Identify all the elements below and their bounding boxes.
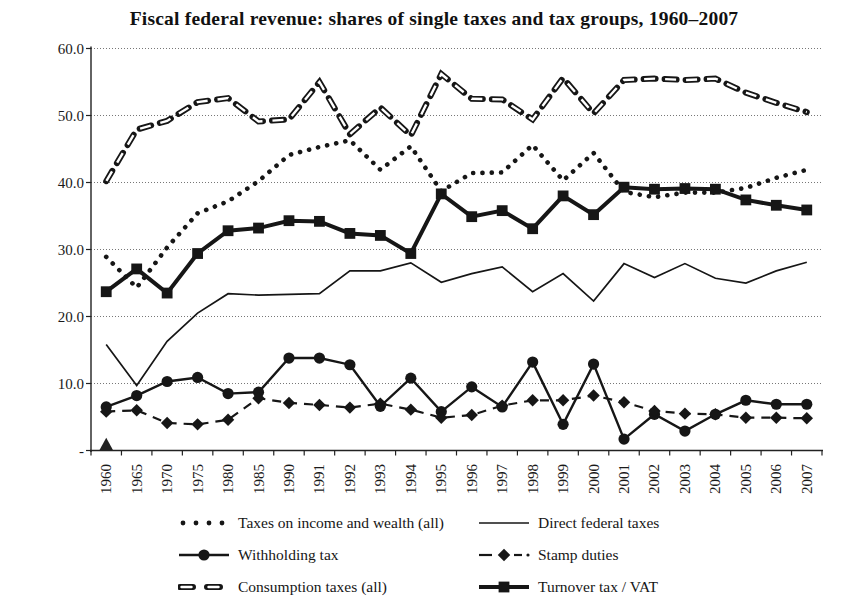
diamond-marker-dash-icon [478,547,530,563]
svg-text:1970: 1970 [159,464,175,494]
svg-text:2005: 2005 [738,464,754,494]
legend-item-direct-federal-taxes: Direct federal taxes [478,511,758,534]
y-axis-labels: 60.050.040.030.020.010.0- [58,41,84,459]
svg-text:1991: 1991 [311,464,327,494]
svg-text:2006: 2006 [768,464,784,495]
legend-item-consumption-taxes: Consumption taxes (all) [178,575,478,598]
legend-item-stamp-duties: Stamp duties [478,543,758,566]
square-marker-line-icon [478,579,530,595]
legend-label: Taxes on income and wealth (all) [238,514,444,532]
svg-text:2000: 2000 [586,464,602,494]
series-2 [101,352,813,444]
svg-text:60.0: 60.0 [58,41,84,57]
legend-label: Turnover tax / VAT [538,578,658,596]
svg-text:1993: 1993 [372,464,388,494]
triangle-marker [99,438,113,451]
circle-marker-line-icon [178,547,230,563]
chart-legend: Taxes on income and wealth (all) Direct … [178,511,758,598]
series-3 [100,389,813,430]
series-1 [106,262,807,385]
solid-line-icon [478,515,530,531]
hollow-dash-line-icon [178,579,230,595]
legend-label: Direct federal taxes [538,514,659,532]
legend-item-income-wealth-taxes: Taxes on income and wealth (all) [178,511,478,534]
svg-text:50.0: 50.0 [58,108,84,124]
figure: Fiscal federal revenue: shares of single… [0,0,868,614]
svg-text:1995: 1995 [433,464,449,494]
svg-text:1965: 1965 [129,464,145,494]
svg-text:2004: 2004 [707,464,723,495]
svg-text:2001: 2001 [616,464,632,494]
svg-text:1980: 1980 [220,464,236,494]
legend-item-withholding-tax: Withholding tax [178,543,478,566]
svg-text:30.0: 30.0 [58,242,84,258]
svg-text:-: - [79,443,84,459]
svg-text:1960: 1960 [98,464,114,494]
svg-text:1994: 1994 [403,464,419,495]
svg-text:1992: 1992 [342,464,358,494]
svg-text:2007: 2007 [799,464,815,495]
series-4 [106,74,807,181]
svg-text:2002: 2002 [646,464,662,494]
x-axis-labels: 1960196519701975198019851990199119921993… [98,464,815,495]
svg-text:40.0: 40.0 [58,175,84,191]
dotted-line-icon [178,515,230,531]
legend-label: Consumption taxes (all) [238,578,387,596]
svg-text:1990: 1990 [281,464,297,494]
series-5 [101,182,812,299]
svg-text:10.0: 10.0 [58,376,84,392]
legend-label: Withholding tax [238,546,339,564]
svg-text:1998: 1998 [525,464,541,494]
legend-label: Stamp duties [538,546,619,564]
legend-item-turnover-vat: Turnover tax / VAT [478,575,758,598]
svg-text:1996: 1996 [464,464,480,495]
svg-text:20.0: 20.0 [58,309,84,325]
svg-text:1997: 1997 [494,464,510,495]
svg-text:1975: 1975 [190,464,206,494]
svg-text:1999: 1999 [555,464,571,494]
svg-text:1985: 1985 [251,464,267,494]
svg-text:2003: 2003 [677,464,693,494]
series-0 [106,140,807,287]
